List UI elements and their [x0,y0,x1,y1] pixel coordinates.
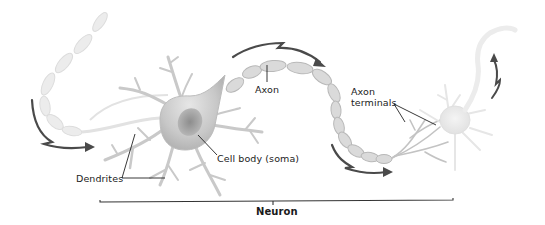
arrow-top-icon [233,43,320,62]
axon-terminal-branches [392,118,448,162]
dendrites-label: Dendrites [76,173,123,184]
axon [224,59,392,163]
neuron-diagram: Axon Axon terminals Cell body (soma) Den… [0,0,545,225]
neuron-bracket [100,198,453,205]
axon-terminals-label-line2: terminals [351,97,397,108]
neuron-label: Neuron [256,206,298,217]
axon-label: Axon [255,84,279,95]
target-neuron [420,28,515,170]
neuron-illustration [0,0,545,225]
axon-terminals-label-line1: Axon [351,86,375,97]
arrow-right-icon [492,60,500,98]
incoming-axon [38,10,110,137]
cell-body-label: Cell body (soma) [217,153,299,164]
